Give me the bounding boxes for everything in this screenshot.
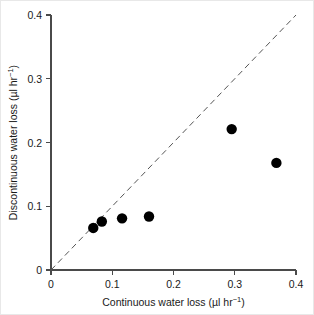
plot-canvas: 0 0.1 0.2 0.3 0.4 0 0.1 0.2 0.3 0.4 Cont… xyxy=(1,1,314,315)
y-axis-ticks xyxy=(46,15,51,270)
data-point xyxy=(88,223,98,233)
y-axis-title-superscript: −1 xyxy=(6,68,15,77)
data-point xyxy=(117,213,127,223)
x-axis-title-main: Continuous water loss (µl hr xyxy=(102,296,233,308)
x-axis-ticks xyxy=(51,270,296,275)
identity-reference-line xyxy=(51,15,296,270)
data-point xyxy=(271,158,281,168)
x-tick-label-1: 0.1 xyxy=(105,278,120,290)
x-tick-label-4: 0.4 xyxy=(289,278,304,290)
y-tick-label-0: 0 xyxy=(36,264,42,276)
x-tick-label-3: 0.3 xyxy=(227,278,242,290)
y-tick-label-1: 0.1 xyxy=(27,200,42,212)
data-point xyxy=(97,216,107,226)
x-axis-title-tail: ) xyxy=(241,296,245,308)
y-tick-labels: 0 0.1 0.2 0.3 0.4 xyxy=(27,9,42,276)
y-tick-label-2: 0.2 xyxy=(27,137,42,149)
x-tick-label-2: 0.2 xyxy=(166,278,181,290)
x-tick-labels: 0 0.1 0.2 0.3 0.4 xyxy=(48,278,303,290)
x-tick-label-0: 0 xyxy=(48,278,54,290)
y-tick-label-3: 0.3 xyxy=(27,73,42,85)
data-point xyxy=(144,211,154,221)
data-points-group xyxy=(88,124,282,233)
x-axis-title-superscript: −1 xyxy=(233,295,242,304)
data-point xyxy=(226,124,236,134)
y-axis-title: Discontinuous water loss (µl hr−1) xyxy=(6,65,19,220)
y-tick-label-4: 0.4 xyxy=(27,9,42,21)
y-axis-title-tail: ) xyxy=(7,65,19,69)
x-axis-title: Continuous water loss (µl hr−1) xyxy=(102,295,244,308)
y-axis-title-main: Discontinuous water loss (µl hr xyxy=(7,76,19,220)
scatter-plot-figure: 0 0.1 0.2 0.3 0.4 0 0.1 0.2 0.3 0.4 Cont… xyxy=(0,0,314,315)
